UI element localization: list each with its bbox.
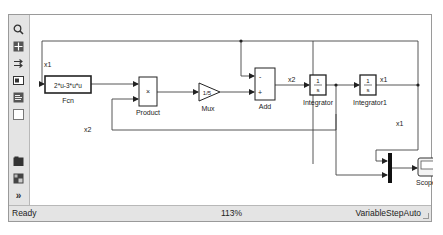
scope-label: Scope: [416, 179, 433, 187]
arrows-icon[interactable]: [12, 57, 25, 69]
fit-to-view-icon[interactable]: [12, 40, 25, 52]
gain-value: 1/5: [203, 90, 212, 96]
fcn-block[interactable]: 2*u-3*u*u Fcn: [45, 76, 91, 104]
integrator1-denominator: s: [367, 87, 370, 93]
product-label: Product: [136, 109, 160, 116]
status-bar: Ready 113% VariableStepAuto: [9, 205, 431, 221]
library-icon[interactable]: [12, 172, 25, 184]
solver-type: VariableStepAuto: [355, 208, 421, 218]
status-state: Ready: [12, 208, 37, 218]
fcn-expression: 2*u-3*u*u: [54, 82, 82, 89]
integrator-denominator: s: [317, 87, 320, 93]
resize-grip[interactable]: [423, 213, 429, 219]
integrator-label: Integrator: [303, 99, 334, 107]
square-icon[interactable]: [12, 108, 25, 120]
scope-block[interactable]: Scope: [416, 158, 433, 187]
signal-label-x1-down: x1: [396, 120, 404, 127]
gain-label: Mux: [201, 105, 215, 112]
signal-label-x2-add: x2: [288, 76, 296, 83]
signal-label-x1: x1: [44, 61, 52, 68]
fcn-label: Fcn: [62, 97, 74, 104]
signal-label-x2: x2: [84, 126, 92, 133]
product-block[interactable]: × Product: [136, 77, 160, 116]
signal-label-x1-out: x1: [380, 76, 388, 83]
image-icon[interactable]: [12, 74, 25, 86]
add-label: Add: [259, 103, 272, 110]
text-icon[interactable]: [12, 91, 25, 103]
block-diagram: 2*u-3*u*u Fcn × Product 1/5 Mux - + Add: [30, 15, 433, 207]
folder-icon[interactable]: [12, 155, 25, 167]
add-block[interactable]: - + Add: [255, 68, 275, 110]
zoom-icon[interactable]: [12, 23, 25, 35]
integrator1-label: Integrator1: [353, 99, 387, 107]
zoom-level: 113%: [221, 208, 242, 218]
more-icon[interactable]: »: [12, 189, 25, 201]
add-sign-bottom: +: [258, 89, 262, 96]
model-canvas[interactable]: 2*u-3*u*u Fcn × Product 1/5 Mux - + Add: [30, 15, 431, 207]
mux-block[interactable]: [388, 153, 392, 183]
simulink-window: »: [8, 14, 432, 222]
gain-block[interactable]: 1/5 Mux: [199, 83, 220, 112]
product-symbol: ×: [146, 88, 150, 95]
left-toolbar: »: [9, 15, 30, 207]
integrator-block[interactable]: 1 s Integrator: [303, 75, 334, 107]
